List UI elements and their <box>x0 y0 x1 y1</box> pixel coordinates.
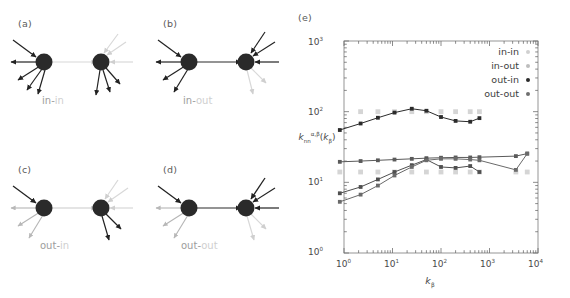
motif-caption-c: out-in <box>40 240 69 251</box>
figure-root: (a) <box>0 0 570 298</box>
motif-caption-b: in-out <box>183 95 212 106</box>
motif-panel-b: (b) in-ou <box>145 0 290 148</box>
motif-caption-d: out-out <box>181 240 218 251</box>
motif-panel-d: (d) <box>145 148 290 298</box>
motif-diagram-d <box>145 148 290 298</box>
motif-caption-c-first: out <box>40 240 56 251</box>
motif-diagram-c <box>0 148 145 298</box>
motif-caption-c-second: in <box>60 240 69 251</box>
motif-panel-a: (a) <box>0 0 145 148</box>
motif-caption-a: in-in <box>42 95 64 106</box>
motif-panel-c: (c) <box>0 148 145 298</box>
motif-diagram-a <box>0 0 145 148</box>
motif-diagram-b <box>145 0 290 148</box>
chart-plot-area <box>290 0 570 298</box>
motif-caption-b-first: in <box>183 95 192 106</box>
motif-panel-e: (e) knnα,β(kβ) kβ 103 102 101 100 100 10… <box>290 0 570 298</box>
motif-caption-a-second: in <box>55 95 64 106</box>
motif-caption-d-second: out <box>201 240 217 251</box>
motif-caption-a-first: in <box>42 95 51 106</box>
motif-caption-b-second: out <box>196 95 212 106</box>
motif-caption-d-first: out <box>181 240 197 251</box>
